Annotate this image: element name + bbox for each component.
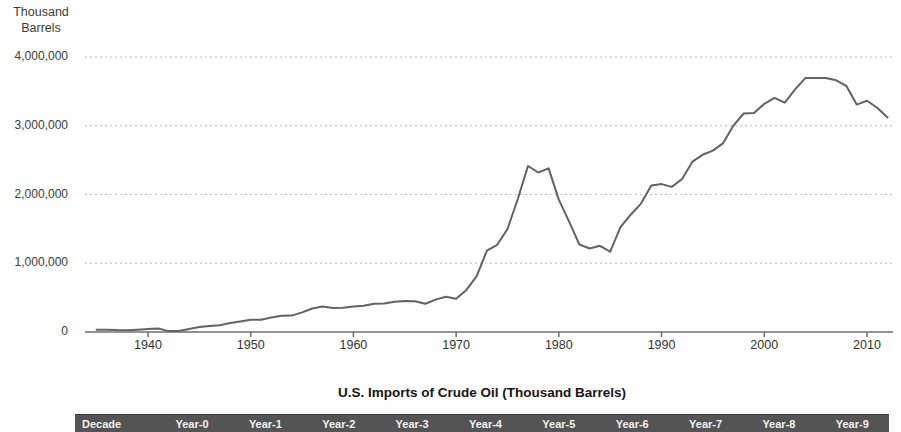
- x-tick-label: 2000: [739, 338, 789, 352]
- x-tick-label: 1970: [431, 338, 481, 352]
- table-header-cell-year-0: Year-0: [155, 415, 228, 432]
- x-tick-label: 1990: [637, 338, 687, 352]
- table-header-cell-year-6: Year-6: [596, 415, 669, 432]
- imports-data-line: [97, 78, 888, 331]
- table-header-cell-year-1: Year-1: [229, 415, 302, 432]
- table-header-cell-year-4: Year-4: [449, 415, 522, 432]
- y-tick-label: 4,000,000: [0, 49, 68, 63]
- table-header-cell-year-3: Year-3: [375, 415, 448, 432]
- table-header-cell-year-2: Year-2: [302, 415, 375, 432]
- table-title: U.S. Imports of Crude Oil (Thousand Barr…: [75, 385, 889, 400]
- table-header-cell-decade: Decade: [75, 415, 155, 432]
- y-tick-label: 2,000,000: [0, 187, 68, 201]
- y-tick-label: 1,000,000: [0, 255, 68, 269]
- x-tick-label: 1940: [123, 338, 173, 352]
- y-tick-label: 0: [0, 324, 68, 338]
- x-tick-label: 2010: [842, 338, 892, 352]
- table-header-cell-year-9: Year-9: [816, 415, 889, 432]
- line-chart-canvas: [0, 0, 901, 380]
- table-header-row: Decade Year-0 Year-1 Year-2 Year-3 Year-…: [75, 414, 889, 432]
- x-tick-label: 1980: [534, 338, 584, 352]
- x-tick-label: 1960: [328, 338, 378, 352]
- table-header-cell-year-5: Year-5: [522, 415, 595, 432]
- table-header-cell-year-7: Year-7: [669, 415, 742, 432]
- scanned-chart-page: Thousand Barrels 4,000,000 3,000,000 2,0…: [0, 0, 901, 432]
- y-tick-label: 3,000,000: [0, 118, 68, 132]
- x-tick-label: 1950: [226, 338, 276, 352]
- table-header-cell-year-8: Year-8: [742, 415, 815, 432]
